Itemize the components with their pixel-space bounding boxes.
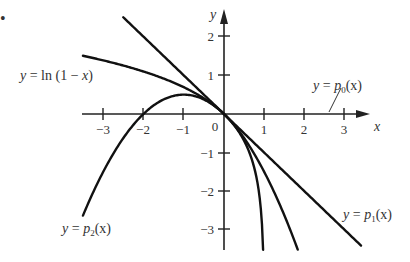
curve-p1 <box>123 17 361 245</box>
y-tick-label: −2 <box>200 184 214 199</box>
bullet-marker: • <box>0 10 6 27</box>
y-tick-label: −1 <box>200 146 214 161</box>
y-tick-label: 2 <box>208 29 215 44</box>
label-ln: y = ln (1 − x) <box>18 68 93 84</box>
x-tick-label: −1 <box>176 122 190 137</box>
curves <box>83 17 361 249</box>
x-tick-label: −2 <box>136 122 150 137</box>
label-p2: y = p2(x) <box>60 221 111 238</box>
curve-p2 <box>83 95 298 250</box>
x-tick-label: 3 <box>341 122 348 137</box>
y-tick-label: 1 <box>208 68 215 83</box>
y-axis-title: y <box>208 7 217 22</box>
x-axis-arrow-icon <box>356 110 370 118</box>
origin-label: 0 <box>212 119 219 134</box>
x-tick-labels: −3 −2 −1 1 2 3 0 <box>96 119 347 137</box>
x-tick-label: 2 <box>301 122 308 137</box>
x-axis-title: x <box>373 119 381 134</box>
taylor-polynomial-chart: • −3 −2 −1 1 2 3 0 2 1 −1 −2 −3 <box>0 0 410 262</box>
x-tick-label: −3 <box>96 122 110 137</box>
x-tick-label: 1 <box>261 122 268 137</box>
y-axis-arrow-icon <box>220 9 228 24</box>
label-p1: y = p1(x) <box>341 207 392 224</box>
y-tick-label: −3 <box>200 222 214 237</box>
label-p0: y = p0(x) <box>311 78 362 95</box>
